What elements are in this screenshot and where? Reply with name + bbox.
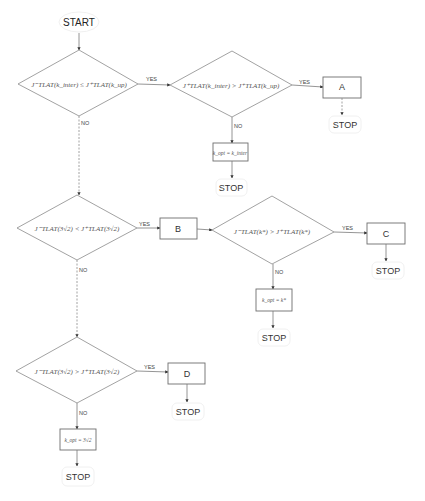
decision-1: J⁻TLAT(k_inter) ≤ J⁺TLAT(k_up) [18, 50, 138, 116]
process-B: B [160, 218, 197, 239]
no-label: NO [81, 120, 90, 126]
decision-1-condition: J⁻TLAT(k_inter) ≤ J⁺TLAT(k_up) [31, 81, 127, 89]
stop-node-p2: STOP [258, 329, 290, 346]
yes-label: YES [342, 225, 353, 231]
process-D-label: D [184, 369, 191, 379]
decision-3: J⁻TLAT(3√2) < J⁺TLAT(3√2) [17, 195, 137, 260]
stop-node-D: STOP [172, 403, 204, 420]
process-C: C [367, 223, 405, 244]
no-label: NO [275, 269, 284, 275]
yes-label: YES [144, 364, 155, 370]
no-label: NO [234, 123, 243, 129]
yes-label: YES [146, 76, 157, 82]
process-D: D [168, 363, 205, 384]
process-kopt-kstar: k_opt = k* [256, 289, 292, 311]
process-B-label: B [175, 224, 181, 234]
stop-label: STOP [376, 266, 400, 276]
edge-d2-yes [292, 85, 323, 87]
edge-d5-yes [137, 371, 168, 372]
start-node: START [59, 12, 99, 32]
yes-label: YES [139, 221, 150, 227]
yes-label: YES [299, 79, 310, 85]
decision-2: J⁺TLAT(k_inter) > J⁺TLAT(k_up) [170, 51, 292, 117]
process-A-label: A [339, 82, 345, 92]
process-A: A [323, 77, 361, 98]
edge-d1-yes [138, 84, 170, 85]
process-kopt-3sqrt2: k_opt = 3√2 [60, 429, 96, 450]
no-label: NO [79, 410, 88, 416]
stop-label: STOP [262, 333, 286, 343]
stop-label: STOP [219, 183, 243, 193]
start-label: START [63, 17, 95, 28]
decision-5: J⁻TLAT(3√2) > J⁺TLAT(3√2) [16, 337, 137, 403]
process-p1-label: k_opt = k_inter [213, 150, 248, 156]
edge-d4-yes [334, 232, 367, 233]
decision-4: J⁻TLAT(k*) > J⁺TLAT(k*) [212, 196, 334, 264]
edge-B-d4 [197, 229, 212, 230]
stop-label: STOP [66, 472, 90, 482]
stop-label: STOP [176, 407, 200, 417]
flowchart: START J⁻TLAT(k_inter) ≤ J⁺TLAT(k_up) YES… [0, 0, 425, 501]
no-label: NO [79, 267, 88, 273]
decision-3-condition: J⁻TLAT(3√2) < J⁺TLAT(3√2) [35, 225, 121, 233]
stop-label: STOP [333, 120, 357, 130]
process-p3-label: k_opt = 3√2 [64, 437, 91, 443]
process-p2-label: k_opt = k* [262, 297, 286, 303]
process-kopt-kinter: k_opt = k_inter [213, 143, 248, 161]
stop-node-A: STOP [329, 116, 361, 133]
decision-4-condition: J⁻TLAT(k*) > J⁺TLAT(k*) [234, 228, 311, 236]
stop-node-p1: STOP [216, 179, 247, 196]
stop-node-p3: STOP [62, 467, 94, 486]
decision-2-condition: J⁺TLAT(k_inter) > J⁺TLAT(k_up) [183, 82, 280, 90]
stop-node-C: STOP [372, 262, 404, 279]
process-C-label: C [383, 229, 390, 239]
decision-5-condition: J⁻TLAT(3√2) > J⁺TLAT(3√2) [35, 368, 121, 376]
